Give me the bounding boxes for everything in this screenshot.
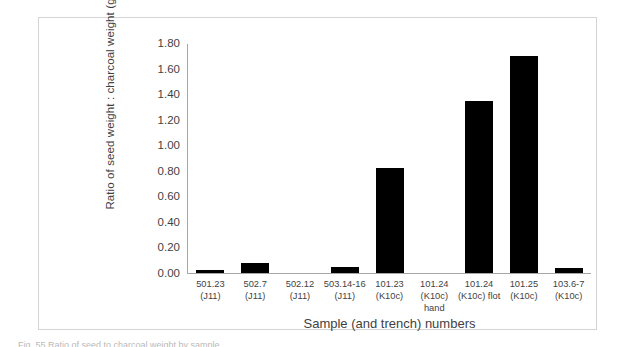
plot-area: 0.000.200.400.600.801.001.201.401.601.80… — [140, 44, 595, 300]
y-axis-tick-label: 1.20 — [140, 115, 180, 127]
y-axis-tick-label: 0.20 — [140, 243, 180, 255]
y-axis-tick-label: 0.40 — [140, 217, 180, 229]
bar — [241, 263, 269, 273]
bar — [376, 168, 404, 273]
x-axis-category-label: 101.24(K10c) flot — [457, 275, 502, 314]
bar — [196, 270, 224, 273]
x-axis-title: Sample (and trench) numbers — [188, 316, 591, 331]
bar — [555, 268, 583, 273]
bar-series — [188, 44, 591, 273]
bar-slot — [457, 44, 502, 273]
x-axis-category-label: 502.12(J11) — [278, 275, 323, 314]
y-axis-tick-label: 1.40 — [140, 89, 180, 101]
x-axis-category-label: 103.6-7(K10c) — [546, 275, 591, 314]
x-axis-line — [187, 273, 591, 274]
bar — [331, 267, 359, 273]
figure-caption: Fig. 55 Ratio of seed to charcoal weight… — [18, 340, 348, 347]
y-axis-tick-label: 1.80 — [140, 38, 180, 50]
figure-frame: Ratio of seed weight : charcoal weight (… — [38, 17, 597, 330]
y-axis-tick-label: 1.00 — [140, 140, 180, 152]
bar-slot — [367, 44, 412, 273]
x-axis-category-label: 101.23(K10c) — [367, 275, 412, 314]
x-axis-category-label: 101.24(K10c) hand — [412, 275, 457, 314]
x-axis-category-label: 503.14-16(J11) — [322, 275, 367, 314]
x-axis-category-label: 101.25(K10c) — [501, 275, 546, 314]
bar — [510, 56, 538, 273]
figure-page: Ratio of seed weight : charcoal weight (… — [0, 0, 633, 347]
x-axis-category-label: 501.23(J11) — [188, 275, 233, 314]
bar-slot — [412, 44, 457, 273]
y-axis-tick-label: 0.80 — [140, 166, 180, 178]
y-axis-tick-label: 0.60 — [140, 192, 180, 204]
bar-slot — [322, 44, 367, 273]
y-axis-tick-label: 0.00 — [140, 268, 180, 280]
x-axis-category-labels: 501.23(J11)502.7 (J11) 502.12(J11)503.14… — [188, 275, 591, 314]
bar-slot — [233, 44, 278, 273]
bar-slot — [546, 44, 591, 273]
y-axis-tick-labels: 0.000.200.400.600.801.001.201.401.601.80 — [140, 44, 180, 274]
chart-axes — [187, 44, 591, 274]
y-axis-title: Ratio of seed weight : charcoal weight (… — [104, 0, 116, 217]
x-axis-category-label: 502.7 (J11) — [233, 275, 278, 314]
bar-slot — [188, 44, 233, 273]
y-axis-tick-label: 1.60 — [140, 64, 180, 76]
bar — [465, 101, 493, 274]
bar-slot — [501, 44, 546, 273]
bar-slot — [278, 44, 323, 273]
